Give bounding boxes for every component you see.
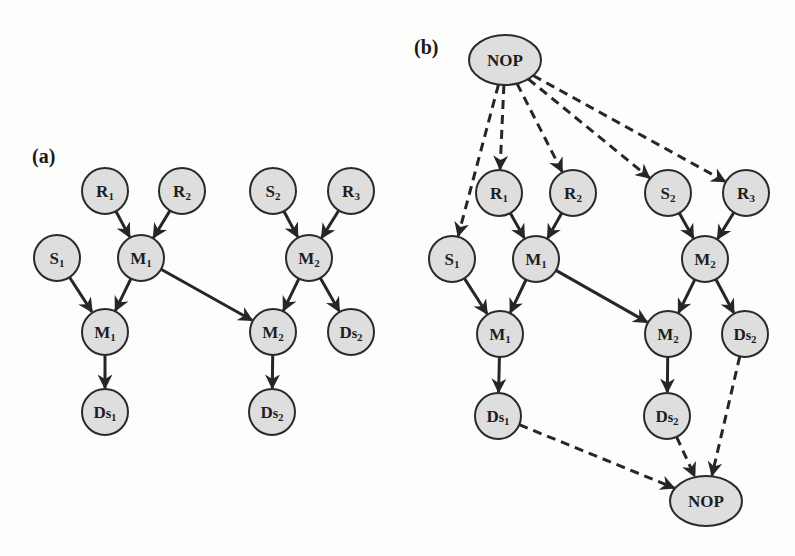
node-b-ds2: Ds2 (644, 393, 690, 439)
edge-a-S1-to-M1bot (70, 277, 92, 312)
node-a-m1: M1 (118, 235, 164, 281)
node-a-r1: R1 (82, 168, 128, 214)
node-b-r2: R2 (550, 170, 596, 216)
node-b-ds1: Ds1 (475, 393, 521, 439)
edge-a-M1top-to-M1bot (115, 279, 130, 311)
graph-diagram: R1R2S2R3S1M1M2M1M2Ds2Ds1Ds2NOPR1R2S2R3S1… (0, 0, 795, 556)
node-a-s2: S2 (250, 168, 296, 214)
node-a-ds2: Ds2 (328, 309, 374, 355)
edge-a-R2-to-M1top (154, 211, 170, 238)
node-a-ds2: Ds2 (249, 389, 295, 435)
node-b-r3: R3 (723, 170, 769, 216)
node-label: NOP (487, 51, 523, 70)
edge-b-M2top-to-Ds2r (716, 279, 734, 313)
node-a-r3: R3 (328, 168, 374, 214)
node-label: NOP (688, 492, 724, 511)
edge-b-S1-to-M1bot (464, 278, 487, 313)
edge-b-Ds2-to-NOPbot (677, 437, 695, 476)
edges-layer (70, 76, 740, 488)
edge-b-M1top-to-M1bot (510, 280, 526, 313)
edge-b-M2top-to-M2bot (679, 280, 695, 313)
edge-b-M1bot-to-Ds1 (499, 357, 500, 392)
edge-a-R3-to-M2top (322, 210, 339, 237)
node-b-nop: NOP (469, 35, 541, 85)
node-a-m2: M2 (286, 235, 332, 281)
node-b-m1: M1 (477, 311, 523, 357)
node-b-m1: M1 (513, 236, 559, 282)
node-b-s2: S2 (645, 170, 691, 216)
node-b-s1: S1 (429, 236, 475, 282)
edge-b-Ds2r-to-NOPbot (712, 356, 740, 475)
edge-b-Ds1-to-NOPbot (519, 425, 674, 488)
edge-a-R1-to-M1top (116, 211, 130, 237)
edge-a-M1top-to-M2bot (161, 269, 252, 320)
edge-b-R1-to-M1top (510, 213, 524, 238)
node-a-m2: M2 (250, 309, 296, 355)
nodes-layer: R1R2S2R3S1M1M2M1M2Ds2Ds1Ds2NOPR1R2S2R3S1… (34, 35, 769, 526)
edge-b-M1top-to-M2bot (556, 270, 647, 322)
panel-label-a: (a) (32, 145, 55, 168)
edge-b-NOPtop-to-R3 (533, 76, 725, 182)
panel-label-b: (b) (414, 36, 438, 59)
edge-b-NOPtop-to-R2 (517, 84, 562, 172)
node-b-r1: R1 (476, 170, 522, 216)
node-b-m2: M2 (645, 311, 691, 357)
node-a-ds1: Ds1 (82, 389, 128, 435)
node-a-m1: M1 (82, 309, 128, 355)
edge-a-M2top-to-M2bot (283, 279, 298, 311)
node-a-s1: S1 (34, 235, 80, 281)
node-b-m2: M2 (682, 236, 728, 282)
edge-b-S2-to-M2top (679, 213, 693, 238)
edge-b-R3-to-M2top (718, 213, 734, 239)
edge-a-M2top-to-Ds2r (320, 278, 339, 311)
figure-canvas: R1R2S2R3S1M1M2M1M2Ds2Ds1Ds2NOPR1R2S2R3S1… (0, 0, 795, 556)
edge-a-S2-to-M2top (284, 211, 298, 237)
node-b-ds2: Ds2 (722, 311, 768, 357)
edge-b-NOPtop-to-R1 (500, 85, 504, 169)
node-b-nop: NOP (670, 476, 742, 526)
edge-b-R2-to-M1top (548, 213, 562, 238)
node-a-r2: R2 (159, 168, 205, 214)
